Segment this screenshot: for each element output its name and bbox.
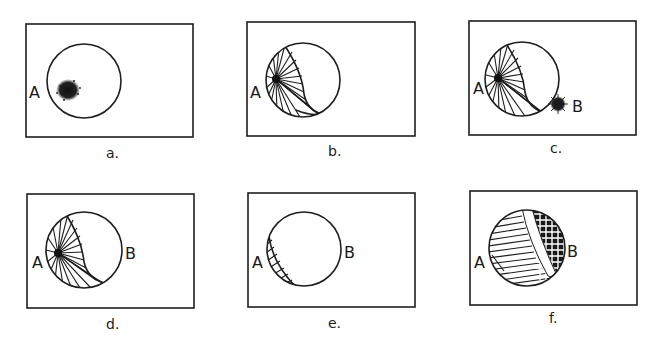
panel-d-label-B: B [125, 244, 136, 263]
panel-a-label-A: A [29, 83, 40, 102]
panel-e-caption: e. [328, 315, 341, 331]
panel-b-caption: b. [328, 143, 341, 159]
panel-b-label-A: A [250, 83, 261, 102]
panel-b: A b. [247, 22, 415, 159]
panel-c: A B c. [469, 21, 636, 156]
panel-c-label-A: A [473, 79, 484, 98]
panel-b-hatched-region [255, 40, 322, 125]
panel-f: A B f. [470, 191, 637, 326]
panel-f-label-B: B [567, 242, 578, 261]
panel-d-caption: d. [106, 316, 119, 332]
panel-f-filled-circle [488, 205, 570, 286]
panel-e-frame [248, 193, 415, 307]
panel-c-label-B: B [572, 97, 583, 116]
panel-e-label-B: B [344, 243, 355, 262]
panel-a: A a. [26, 24, 193, 161]
panel-e-hatched-sliver [260, 235, 295, 290]
panel-d: A B d. [27, 194, 194, 332]
panel-f-caption: f. [549, 310, 557, 326]
panel-f-label-A: A [474, 253, 485, 272]
panel-d-label-A: A [32, 253, 43, 272]
panel-c-dense-spot-B [548, 94, 568, 114]
figure-canvas: A a. [0, 0, 661, 342]
panel-e: A B e. [248, 193, 415, 331]
panel-e-circle [267, 212, 341, 286]
panel-a-circle [47, 44, 121, 118]
panel-a-dense-spot [56, 79, 81, 101]
panel-e-label-A: A [252, 253, 263, 272]
panel-c-caption: c. [550, 140, 562, 156]
panel-a-caption: a. [106, 145, 119, 161]
panel-a-frame [26, 24, 193, 137]
